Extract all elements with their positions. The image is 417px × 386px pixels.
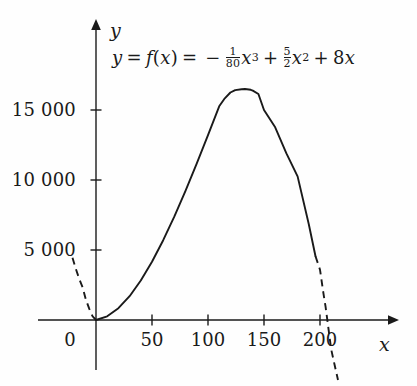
formula-term2-var: x <box>292 47 302 68</box>
function-graph-figure: 15 000 10 000 5 000 0 50 100 150 200 y x… <box>0 0 417 386</box>
formula-plus-2: + <box>310 47 333 68</box>
formula-paren-open: ( <box>153 47 160 68</box>
formula-paren-close: ) <box>171 47 178 68</box>
y-tick-label-5000: 5 000 <box>10 241 76 259</box>
formula-term3-var: x <box>345 47 355 68</box>
formula-equals-2: = <box>178 47 201 68</box>
curve-dashed-right <box>316 256 339 380</box>
curve-dashed-left <box>73 258 97 320</box>
y-tick-label-10000: 10 000 <box>10 171 76 189</box>
y-axis-label: y <box>110 21 121 40</box>
x-axis-label: x <box>379 335 390 354</box>
x-tick-label-50: 50 <box>134 331 170 349</box>
x-tick-label-100: 100 <box>185 331 231 349</box>
function-formula: y = f ( x ) = − 1 80 x3 + 5 2 x2 + 8x <box>112 46 355 69</box>
x-tick-label-0: 0 <box>56 331 84 349</box>
fraction-1-numerator: 1 <box>229 46 236 57</box>
fraction-1-denominator: 80 <box>226 57 241 69</box>
formula-fn: f <box>146 47 153 68</box>
formula-y: y <box>112 47 122 68</box>
formula-term1-var: x <box>241 47 251 68</box>
formula-fraction-5-2: 5 2 <box>284 46 291 69</box>
x-tick-label-200: 200 <box>297 331 343 349</box>
fraction-2-denominator: 2 <box>284 57 291 69</box>
y-axis-arrowhead <box>91 19 101 30</box>
formula-fn-arg: x <box>160 47 170 68</box>
formula-plus-1: + <box>259 47 282 68</box>
formula-minus-sign: − <box>201 47 224 68</box>
formula-fraction-1-80: 1 80 <box>226 46 241 69</box>
formula-equals-1: = <box>122 47 145 68</box>
x-tick-label-150: 150 <box>241 331 287 349</box>
y-tick-label-15000: 15 000 <box>10 101 76 119</box>
formula-term3-coefficient: 8 <box>333 47 345 68</box>
fraction-2-numerator: 5 <box>284 46 291 57</box>
curve-solid-main <box>96 89 316 320</box>
x-axis-arrowhead <box>388 315 399 325</box>
